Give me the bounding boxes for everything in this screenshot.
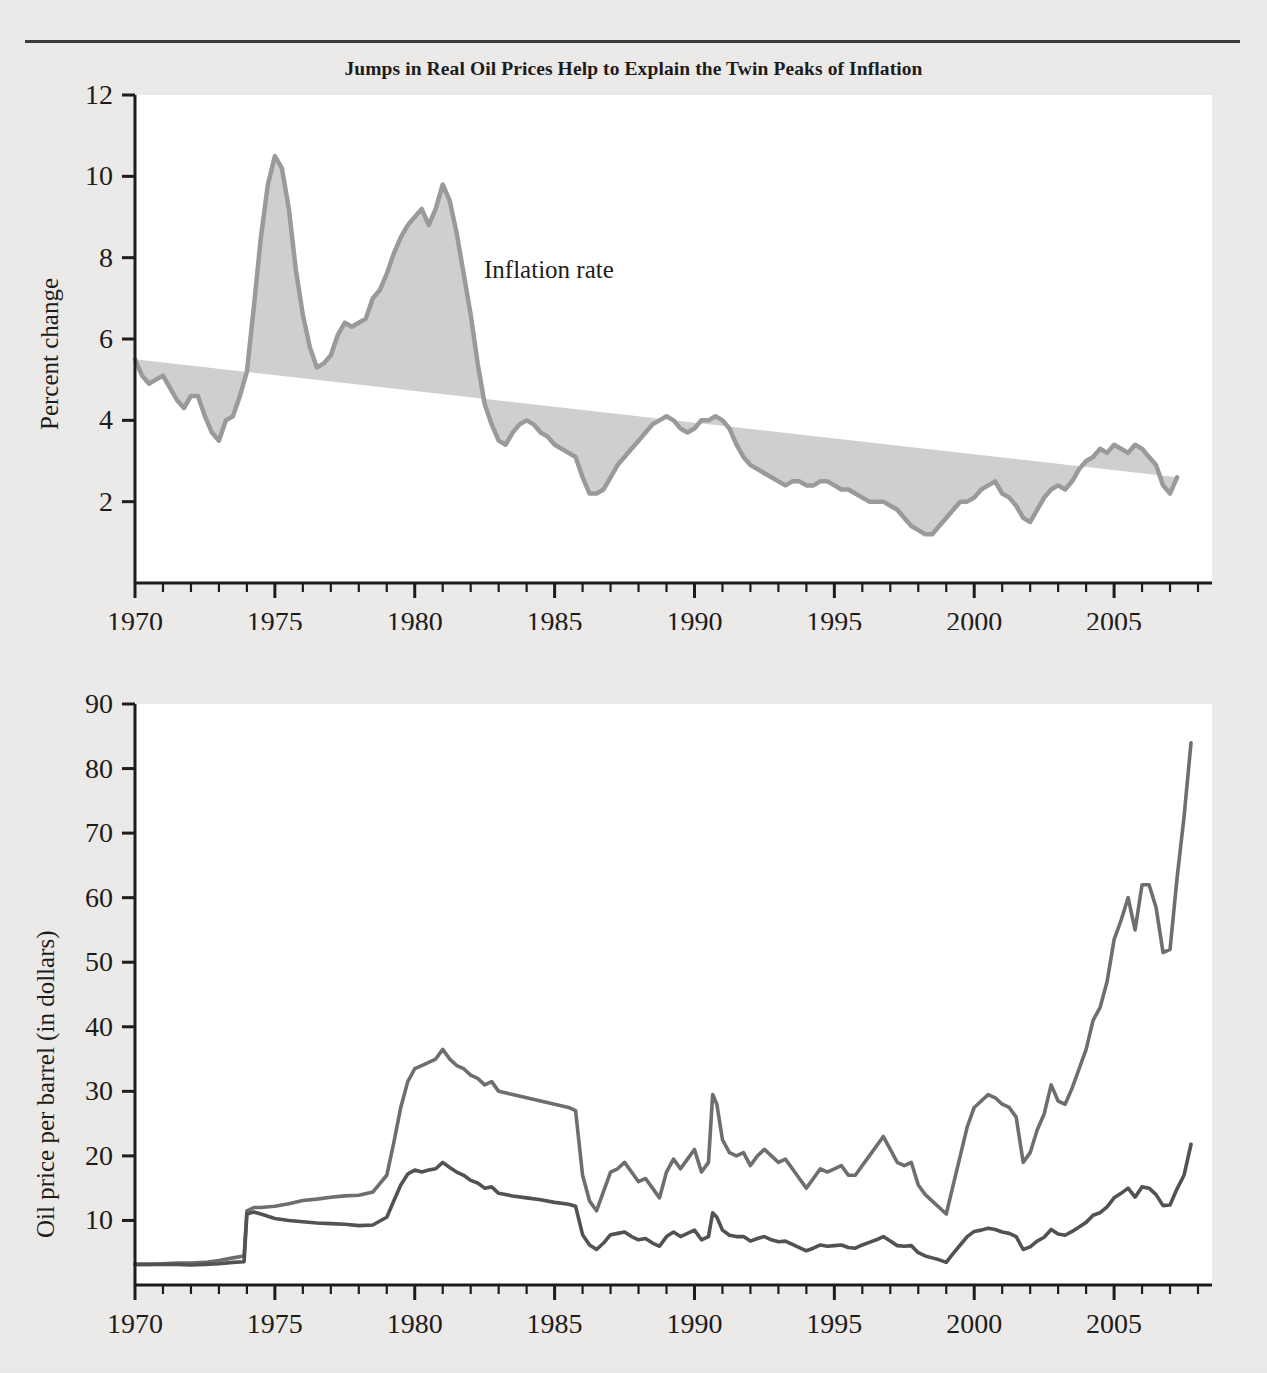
x-tick-label: 2005 [1086, 1308, 1142, 1339]
figure-page: Jumps in Real Oil Prices Help to Explain… [0, 0, 1267, 1373]
x-tick-label: 1975 [247, 606, 303, 630]
x-tick-label: 1980 [387, 1308, 443, 1339]
oil-price-chart-svg: 1020304050607080901970197519801985199019… [0, 660, 1267, 1360]
y-tick-label: 12 [85, 79, 113, 110]
x-tick-label: 1970 [107, 606, 163, 630]
inflation-chart-svg: 2468101219701975198019851990199520002005 [0, 0, 1267, 630]
y-tick-label: 70 [85, 817, 113, 848]
x-tick-label: 1980 [387, 606, 443, 630]
y-tick-label: 10 [85, 160, 113, 191]
x-tick-label: 1995 [806, 606, 862, 630]
plot-background [135, 704, 1212, 1285]
x-tick-label: 1985 [527, 1308, 583, 1339]
oil-price-chart-panel: 1020304050607080901970197519801985199019… [0, 660, 1267, 1360]
y-tick-label: 50 [85, 946, 113, 977]
x-tick-label: 1970 [107, 1308, 163, 1339]
y-tick-label: 40 [85, 1011, 113, 1042]
x-tick-label: 1990 [666, 1308, 722, 1339]
inflation-series-label: Inflation rate [484, 256, 614, 283]
y-tick-label: 4 [99, 404, 113, 435]
x-tick-label: 2005 [1086, 606, 1142, 630]
x-tick-label: 1995 [806, 1308, 862, 1339]
inflation-y-axis-title: Percent change [36, 278, 64, 430]
x-tick-label: 1990 [666, 606, 722, 630]
y-tick-label: 60 [85, 882, 113, 913]
x-tick-label: 1975 [247, 1308, 303, 1339]
x-tick-label: 2000 [946, 1308, 1002, 1339]
y-tick-label: 20 [85, 1140, 113, 1171]
oil-price-y-axis-title: Oil price per barrel (in dollars) [32, 930, 60, 1238]
y-tick-label: 30 [85, 1075, 113, 1106]
inflation-chart-panel: 2468101219701975198019851990199520002005… [0, 0, 1267, 630]
y-tick-label: 6 [99, 323, 113, 354]
y-tick-label: 90 [85, 688, 113, 719]
x-tick-label: 2000 [946, 606, 1002, 630]
y-tick-label: 10 [85, 1204, 113, 1235]
y-tick-label: 2 [99, 486, 113, 517]
x-tick-label: 1985 [527, 606, 583, 630]
y-tick-label: 8 [99, 242, 113, 273]
y-tick-label: 80 [85, 753, 113, 784]
